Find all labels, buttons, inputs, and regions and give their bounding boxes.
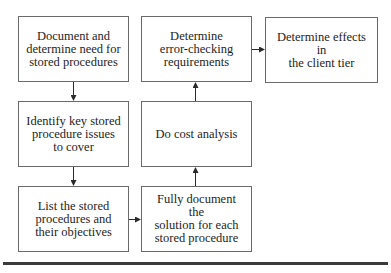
connector-arrows xyxy=(0,0,391,273)
bottom-rule-divider xyxy=(3,262,388,265)
